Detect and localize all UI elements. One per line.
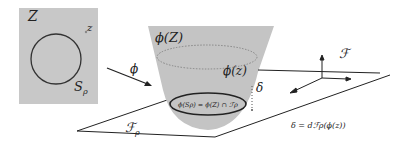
- label-F: ℱ: [339, 46, 352, 61]
- label-z: z: [86, 22, 93, 33]
- label-Z: Z: [27, 8, 38, 24]
- distance-foot-point: [251, 109, 253, 111]
- diagram-canvas: Z z Sρ ϕ ϕ(Z) ϕ(z) ϕ(Sρ) = ϕ(Z) ∩ ℱρ δ ℱ…: [0, 0, 400, 146]
- label-phi-z: ϕ(z): [223, 64, 247, 78]
- map-arrow: [107, 68, 150, 85]
- label-phi: ϕ: [130, 62, 138, 76]
- distance-formula: δ = dℱρ(ϕ(z)): [291, 121, 346, 130]
- label-phi-Z: ϕ(Z): [155, 30, 183, 45]
- label-intersection: ϕ(Sρ) = ϕ(Z) ∩ ℱρ: [178, 101, 238, 109]
- point-z: [85, 31, 87, 33]
- plane-f-back-edge: [258, 70, 380, 73]
- label-F-rho: ℱρ: [125, 120, 140, 137]
- label-delta: δ: [256, 81, 263, 95]
